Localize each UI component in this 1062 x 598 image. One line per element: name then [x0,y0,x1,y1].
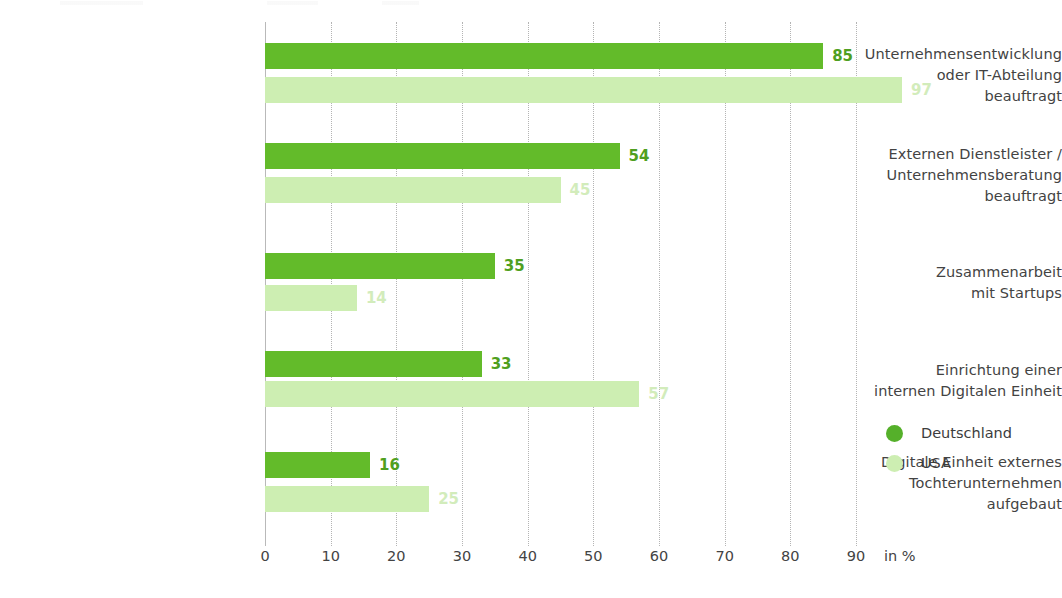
x-tick-label-80: 80 [770,548,810,564]
chart-container: Unternehmensentwicklungoder IT-Abteilung… [0,0,1062,598]
bar-value-label-usa-4: 57 [648,381,669,407]
x-tick-label-30: 30 [442,548,482,564]
bar-deutschland-2 [265,143,620,169]
legend-color-dot-icon-usa [886,455,903,472]
bar-value-label-deutschland-3: 35 [504,253,525,279]
bar-value-label-deutschland-4: 33 [491,351,512,377]
category-label-line: beauftragt [812,186,1062,207]
bar-usa-2 [265,177,561,203]
bar-usa-4 [265,381,639,407]
bar-value-label-deutschland-5: 16 [379,452,400,478]
x-axis-unit-label: in % [884,548,916,564]
cropped-title-remnant [60,1,520,5]
bar-value-label-usa-1: 97 [911,77,932,103]
category-label-line: mit Startups [812,283,1062,304]
bar-value-label-usa-3: 14 [366,285,387,311]
legend-item-usa[interactable]: USA [886,448,1012,478]
category-label-line: Externen Dienstleister / [812,144,1062,165]
bar-value-label-usa-2: 45 [570,177,591,203]
category-label-line: aufgebaut [812,494,1062,515]
x-tick-label-10: 10 [311,548,351,564]
x-tick-label-70: 70 [705,548,745,564]
x-tick-label-50: 50 [573,548,613,564]
bar-usa-1 [265,77,902,103]
bar-value-label-deutschland-1: 85 [832,43,853,69]
legend-label-deutschland: Deutschland [921,425,1012,441]
x-tick-label-40: 40 [508,548,548,564]
bar-usa-5 [265,486,429,512]
category-label-line: Zusammenarbeit [812,262,1062,283]
legend-color-dot-icon-deutschland [886,425,903,442]
category-label-line: Unternehmensberatung [812,165,1062,186]
bar-deutschland-3 [265,253,495,279]
category-label-3: Zusammenarbeitmit Startups [812,262,1062,304]
bar-usa-3 [265,285,357,311]
x-tick-label-90: 90 [836,548,876,564]
x-tick-label-60: 60 [639,548,679,564]
category-label-line: internen Digitalen Einheit [812,381,1062,402]
bar-deutschland-4 [265,351,482,377]
bar-value-label-usa-5: 25 [438,486,459,512]
x-tick-label-0: 0 [245,548,285,564]
bar-deutschland-1 [265,43,823,69]
category-label-4: Einrichtung einerinternen Digitalen Einh… [812,360,1062,402]
legend: Deutschland USA [886,418,1012,478]
x-tick-label-20: 20 [376,548,416,564]
legend-item-deutschland[interactable]: Deutschland [886,418,1012,448]
bar-deutschland-5 [265,452,370,478]
category-label-2: Externen Dienstleister /Unternehmensbera… [812,144,1062,207]
legend-label-usa: USA [921,455,951,471]
category-label-line: Einrichtung einer [812,360,1062,381]
bar-value-label-deutschland-2: 54 [629,143,650,169]
